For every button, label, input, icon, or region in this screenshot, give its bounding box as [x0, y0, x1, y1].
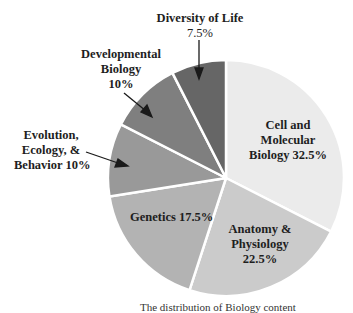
label-evolution-line1: Evolution, [14, 128, 88, 143]
label-evolution: Evolution, Ecology, & Behavior 10% [14, 128, 88, 173]
label-diversity: Diversity of Life 7.5% [153, 11, 247, 41]
label-cell: Cell and Molecular Biology 32.5% [247, 118, 329, 163]
label-anatomy: Anatomy & Physiology 22.5% [227, 222, 293, 267]
label-developmental-line2: Biology [75, 62, 167, 77]
label-cell-value: Biology 32.5% [247, 148, 329, 163]
label-genetics: Genetics 17.5% [130, 210, 206, 225]
label-developmental-line1: Developmental [75, 47, 167, 62]
label-diversity-name: Diversity of Life [153, 11, 247, 26]
label-anatomy-line1: Anatomy & [227, 222, 293, 237]
label-anatomy-line2: Physiology [227, 237, 293, 252]
label-anatomy-value: 22.5% [227, 252, 293, 267]
chart-caption: The distribution of Biology content [140, 301, 296, 313]
label-evolution-line2: Ecology, & [14, 143, 88, 158]
pie-slices [108, 60, 344, 296]
label-evolution-value: Behavior 10% [14, 158, 88, 173]
label-genetics-value: Genetics 17.5% [130, 210, 206, 225]
label-cell-line1: Cell and [247, 118, 329, 133]
label-cell-line2: Molecular [247, 133, 329, 148]
label-developmental: Developmental Biology 10% [75, 47, 167, 92]
label-developmental-value: 10% [75, 77, 167, 92]
label-diversity-value: 7.5% [153, 26, 247, 41]
